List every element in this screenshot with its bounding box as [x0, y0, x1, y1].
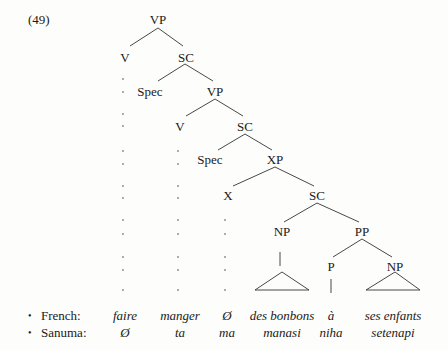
french-word-5: à — [328, 309, 335, 323]
french-word-1: faire — [113, 309, 137, 323]
sanuma-word-5: niha — [319, 326, 342, 340]
node-sc-1: SC — [178, 51, 194, 65]
french-word-4: des bonbons — [250, 309, 315, 323]
node-spec-1: Spec — [137, 85, 162, 99]
node-v-2: V — [175, 120, 184, 134]
node-v-1: V — [120, 51, 129, 65]
node-p: P — [327, 260, 334, 274]
french-word-2: manger — [160, 309, 200, 323]
french-word-6: ses enfants — [365, 309, 422, 323]
node-xp: XP — [267, 153, 284, 167]
bullet-icon: • — [28, 326, 32, 340]
syntax-tree-lines — [0, 0, 448, 350]
sanuma-label: Sanuma: — [41, 326, 87, 340]
trace-dots — [122, 78, 226, 291]
sanuma-word-2: ta — [175, 326, 185, 340]
sanuma-word-4: manasi — [263, 326, 301, 340]
french-word-3: Ø — [222, 309, 231, 323]
bullet-icon: • — [28, 309, 32, 323]
sanuma-word-3: ma — [219, 326, 235, 340]
node-vp-2: VP — [207, 85, 224, 99]
sanuma-word-6: setenapi — [371, 326, 414, 340]
node-sc-3: SC — [309, 189, 325, 203]
node-x: X — [223, 189, 232, 203]
sanuma-word-1: Ø — [120, 326, 129, 340]
node-pp: PP — [355, 225, 369, 239]
node-vp-root: VP — [150, 13, 167, 27]
french-label: French: — [41, 309, 81, 323]
node-np-1: NP — [274, 225, 291, 239]
node-spec-2: Spec — [197, 153, 222, 167]
node-sc-2: SC — [237, 120, 253, 134]
node-np-2: NP — [387, 260, 404, 274]
